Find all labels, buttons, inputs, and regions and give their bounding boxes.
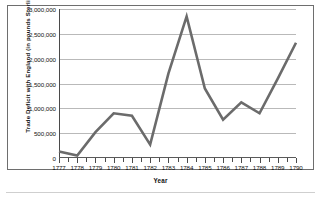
x-axis-minor-tick: [250, 158, 251, 162]
y-axis-tick-label: 2,500,000: [14, 30, 56, 37]
x-axis-minor-tick: [214, 158, 215, 162]
x-axis-tick-label: 1790: [283, 164, 309, 171]
x-axis-minor-tick: [68, 158, 69, 162]
x-axis-minor-tick: [123, 158, 124, 162]
x-axis-tick: [59, 158, 60, 163]
footer-divider: [6, 192, 315, 193]
y-axis-tick-label: 500,000: [14, 130, 56, 137]
data-line: [59, 16, 296, 155]
x-axis-minor-tick: [196, 158, 197, 162]
x-axis-tick: [205, 158, 206, 163]
x-axis-minor-tick: [232, 158, 233, 162]
x-axis-minor-tick: [178, 158, 179, 162]
x-axis-tick: [278, 158, 279, 163]
x-axis-tick: [223, 158, 224, 163]
x-axis-tick: [168, 158, 169, 163]
x-axis-minor-tick: [159, 158, 160, 162]
y-axis-tick-labels: 3,000,0002,500,0002,000,0001,500,0001,00…: [14, 0, 56, 165]
trade-deficit-line-series: [59, 9, 296, 158]
x-axis-tick: [95, 158, 96, 163]
x-axis-tick: [77, 158, 78, 163]
y-axis-tick-label: 2,000,000: [14, 55, 56, 62]
plot-area: [59, 9, 296, 158]
y-axis-tick-label: 1,000,000: [14, 105, 56, 112]
x-axis-minor-tick: [269, 158, 270, 162]
chart-figure: Trade Deficit with England (in pounds St…: [0, 0, 321, 198]
y-axis-tick-label: 3,000,000: [14, 6, 56, 13]
x-axis-tick: [260, 158, 261, 163]
y-axis-tick-label: 1,500,000: [14, 80, 56, 87]
x-axis-tick: [296, 158, 297, 163]
y-axis-tick-label: 0: [14, 155, 56, 162]
x-axis-tick: [187, 158, 188, 163]
x-axis-tick: [132, 158, 133, 163]
x-axis-minor-tick: [141, 158, 142, 162]
x-axis-tick: [241, 158, 242, 163]
x-axis-title: Year: [0, 177, 321, 184]
x-axis-minor-tick: [86, 158, 87, 162]
x-axis-minor-tick: [105, 158, 106, 162]
x-axis-tick: [114, 158, 115, 163]
x-axis-tick-labels: 1777177817791780178117821783178417851786…: [59, 164, 296, 174]
x-axis-minor-tick: [287, 158, 288, 162]
x-axis-tick: [150, 158, 151, 163]
